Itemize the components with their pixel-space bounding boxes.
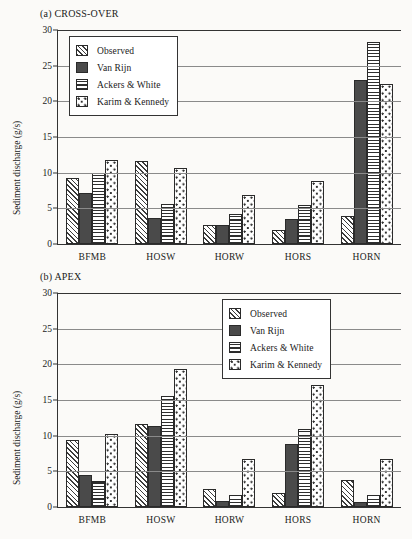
x-tick-label-bfmb: BFMB xyxy=(78,252,106,262)
x-tick-label-hors: HORS xyxy=(285,515,312,525)
legend-item-ackers-white: Ackers & White xyxy=(229,339,322,356)
x-tick-label-hosw: HOSW xyxy=(146,252,175,262)
bar-horw-observed xyxy=(203,489,216,507)
legend-label-karim-kennedy: Karim & Kennedy xyxy=(97,97,169,107)
y-tick-label-10: 10 xyxy=(43,431,53,441)
bar-horw-van-rijn xyxy=(216,225,229,244)
bar-group-hosw: HOSW xyxy=(127,293,196,507)
bar-hors-van-rijn xyxy=(285,219,298,244)
bar-hors-observed xyxy=(272,230,285,244)
bar-hors-van-rijn xyxy=(285,444,298,507)
y-tick-mark-30 xyxy=(53,30,58,31)
bar-hosw-observed xyxy=(135,161,148,244)
x-tick-label-hors: HORS xyxy=(285,252,312,262)
legend-swatch-ackers-white-icon xyxy=(76,79,88,90)
panel-b-legend: Observed Van Rijn Ackers & White Karim &… xyxy=(222,299,331,379)
bar-hors-karim-kennedy xyxy=(311,181,324,244)
legend-item-van-rijn: Van Rijn xyxy=(229,322,322,339)
y-tick-label-10: 10 xyxy=(43,168,53,178)
panel-a-y-axis-label: Sediment discharge (g/s) xyxy=(12,121,22,215)
y-tick-mark-10 xyxy=(53,435,58,436)
y-tick-label-25: 25 xyxy=(43,61,53,71)
bar-group-horn: HORN xyxy=(332,293,401,507)
y-tick-label-0: 0 xyxy=(47,239,52,249)
bar-hosw-observed xyxy=(135,424,148,507)
legend-label-observed: Observed xyxy=(97,46,134,56)
x-tick-label-horw: HORW xyxy=(215,252,245,262)
bar-horn-ackers-white xyxy=(367,42,380,244)
y-tick-mark-0 xyxy=(53,507,58,508)
x-tick-label-horn: HORN xyxy=(353,515,381,525)
bar-horn-van-rijn xyxy=(354,502,367,507)
bar-bfmb-karim-kennedy xyxy=(105,160,118,244)
bar-horn-ackers-white xyxy=(367,495,380,507)
bar-horw-ackers-white xyxy=(229,214,242,244)
legend-swatch-van-rijn-icon xyxy=(76,62,88,73)
bar-hosw-karim-kennedy xyxy=(174,369,187,507)
bar-hors-observed xyxy=(272,493,285,507)
bar-group-horw: HORW xyxy=(195,30,264,244)
legend-label-van-rijn: Van Rijn xyxy=(250,326,284,336)
bar-bfmb-van-rijn xyxy=(79,193,92,244)
bar-bfmb-karim-kennedy xyxy=(105,434,118,507)
legend-label-ackers-white: Ackers & White xyxy=(97,80,160,90)
x-tick-label-bfmb: BFMB xyxy=(78,515,106,525)
legend-item-karim-kennedy: Karim & Kennedy xyxy=(229,356,322,373)
bar-horn-karim-kennedy xyxy=(380,84,393,244)
legend-label-karim-kennedy: Karim & Kennedy xyxy=(250,360,322,370)
bar-horw-karim-kennedy xyxy=(242,195,255,244)
y-tick-mark-20 xyxy=(53,101,58,102)
panel-b-y-axis-label: Sediment discharge (g/s) xyxy=(12,391,22,485)
x-tick-label-horw: HORW xyxy=(215,515,245,525)
y-tick-mark-15 xyxy=(53,137,58,138)
bar-horn-observed xyxy=(341,480,354,507)
legend-swatch-karim-kennedy-icon xyxy=(76,96,88,107)
bar-bfmb-ackers-white xyxy=(92,481,105,507)
bar-bfmb-ackers-white xyxy=(92,173,105,244)
y-tick-label-25: 25 xyxy=(43,324,53,334)
bar-group-horn: HORN xyxy=(332,30,401,244)
bar-horw-observed xyxy=(203,225,216,244)
y-tick-label-20: 20 xyxy=(43,96,53,106)
legend-swatch-van-rijn-icon xyxy=(229,325,241,336)
y-tick-mark-20 xyxy=(53,364,58,365)
y-tick-label-20: 20 xyxy=(43,359,53,369)
x-tick-label-horn: HORN xyxy=(353,252,381,262)
legend-item-observed: Observed xyxy=(229,305,322,322)
bar-horn-van-rijn xyxy=(354,80,367,244)
y-tick-mark-5 xyxy=(53,471,58,472)
legend-label-van-rijn: Van Rijn xyxy=(97,63,131,73)
bar-group-hors: HORS xyxy=(264,30,333,244)
panel-apex: (b) APEX Sediment discharge (g/s) BFMBHO… xyxy=(0,265,412,539)
y-tick-label-5: 5 xyxy=(47,466,52,476)
legend-swatch-observed-icon xyxy=(229,308,241,319)
bar-hors-ackers-white xyxy=(298,429,311,507)
panel-b-title: (b) APEX xyxy=(40,271,81,282)
legend-item-van-rijn: Van Rijn xyxy=(76,59,169,76)
bar-horn-karim-kennedy xyxy=(380,459,393,507)
bar-hosw-ackers-white xyxy=(161,396,174,507)
panel-a-title: (a) CROSS-OVER xyxy=(40,8,119,19)
legend-swatch-observed-icon xyxy=(76,45,88,56)
bar-hosw-karim-kennedy xyxy=(174,168,187,244)
bar-hosw-ackers-white xyxy=(161,204,174,244)
figure-root: (a) CROSS-OVER Sediment discharge (g/s) … xyxy=(0,0,412,539)
y-tick-label-30: 30 xyxy=(43,25,53,35)
bar-hosw-van-rijn xyxy=(148,218,161,244)
legend-item-observed: Observed xyxy=(76,42,169,59)
y-tick-mark-25 xyxy=(53,65,58,66)
legend-swatch-ackers-white-icon xyxy=(229,342,241,353)
panel-a-legend: Observed Van Rijn Ackers & White Karim &… xyxy=(69,36,178,116)
y-tick-mark-0 xyxy=(53,244,58,245)
legend-swatch-karim-kennedy-icon xyxy=(229,359,241,370)
legend-label-ackers-white: Ackers & White xyxy=(250,343,313,353)
bar-group-bfmb: BFMB xyxy=(58,293,127,507)
y-tick-mark-30 xyxy=(53,293,58,294)
bar-horw-van-rijn xyxy=(216,501,229,507)
legend-label-observed: Observed xyxy=(250,309,287,319)
bar-hors-ackers-white xyxy=(298,205,311,244)
y-tick-label-0: 0 xyxy=(47,502,52,512)
y-tick-mark-10 xyxy=(53,172,58,173)
y-tick-label-30: 30 xyxy=(43,288,53,298)
bar-bfmb-observed xyxy=(66,178,79,244)
